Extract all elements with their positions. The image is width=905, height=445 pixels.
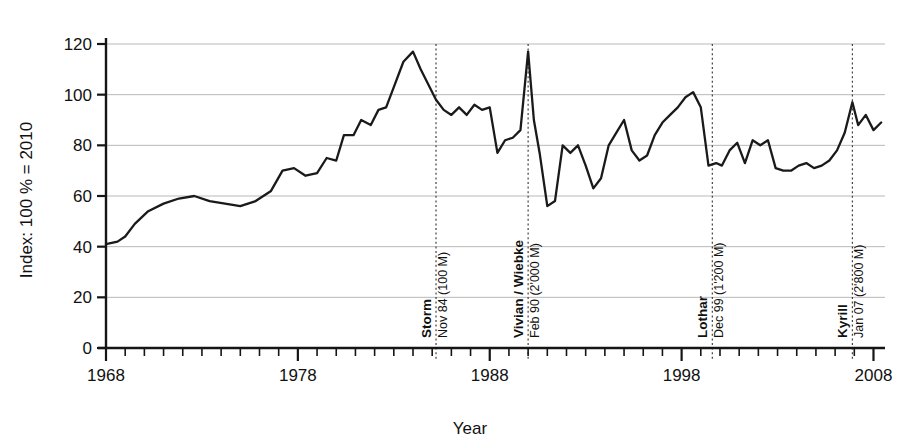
event-name-lothar: Lothar <box>695 295 710 338</box>
x-tick-label-1968: 1968 <box>87 366 125 385</box>
event-detail-lothar: Dec 99 (1'200 M) <box>712 243 726 338</box>
event-detail-storm: Nov 84 (100 M) <box>436 252 450 338</box>
y-tick-label-20: 20 <box>73 288 92 307</box>
event-detail-kyrill: Jan 07 (2'800 M) <box>852 245 866 338</box>
event-detail-vivian-wiebke: Feb 90 (2'000 M) <box>528 243 542 338</box>
x-tick-label-1988: 1988 <box>471 366 509 385</box>
y-tick-label-0: 0 <box>83 339 92 358</box>
x-tick-label-1998: 1998 <box>663 366 701 385</box>
y-tick-label-60: 60 <box>73 187 92 206</box>
x-tick-label-1978: 1978 <box>279 366 317 385</box>
event-name-kyrill: Kyrill <box>835 304 850 338</box>
y-tick-label-100: 100 <box>64 86 92 105</box>
y-axis-title: Index: 100 % = 2010 <box>17 122 36 278</box>
y-tick-label-120: 120 <box>64 35 92 54</box>
x-axis-title: Year <box>453 419 488 438</box>
event-name-storm: Storm <box>419 299 434 338</box>
y-tick-label-40: 40 <box>73 238 92 257</box>
line-chart: 020406080100120 19681978198819982008 Sto… <box>0 0 905 445</box>
chart-container: 020406080100120 19681978198819982008 Sto… <box>0 0 905 445</box>
event-name-vivian-wiebke: Vivian / Wiebke <box>511 240 526 338</box>
x-tick-label-2008: 2008 <box>855 366 893 385</box>
y-tick-label-80: 80 <box>73 136 92 155</box>
